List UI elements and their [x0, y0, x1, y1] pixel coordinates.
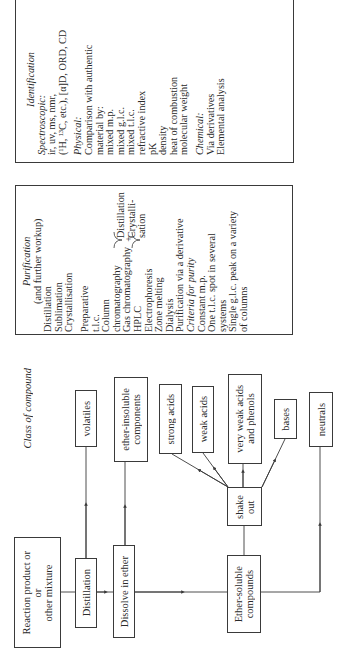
reaction-product-box: Reaction product or or other mixture — [14, 537, 61, 648]
identification-panel: Identification Spectroscopic: ir, uv, ms… — [15, 0, 294, 163]
ether-soluble-box: Ether-soluble compounds — [227, 555, 261, 633]
weak-acids-box: weak acids — [192, 386, 214, 453]
identification-text: Identification Spectroscopic: ir, uv, ms… — [26, 5, 227, 155]
neutrals-connector — [261, 447, 320, 592]
spectroscopic-item: (¹H, ¹³C, etc.), [α]D, ORD, CD — [58, 5, 69, 155]
strong-acids-box: strong acids — [159, 384, 182, 454]
chemical-item: Elemental analysis — [216, 5, 227, 155]
volatiles-label: volatiles — [81, 401, 92, 437]
physical-item: refractive index — [137, 5, 148, 155]
weak-acids-arrow — [214, 468, 228, 487]
ether-insoluble-box: ether-insoluble components — [114, 377, 148, 462]
shake-out-box: shake out — [227, 487, 262, 526]
neutrals-box: neutrals — [309, 392, 333, 447]
very-weak-acids-label: very weak acids and phenols — [234, 385, 256, 453]
dissolve-in-ether-box: Dissolve in ether — [113, 545, 135, 638]
neutrals-label: neutrals — [316, 403, 327, 436]
purification-panel: Purification (and further workup) Distil… — [15, 185, 293, 335]
ether-soluble-label: Ether-soluble compounds — [233, 566, 255, 622]
purification-item: Preparative — [80, 190, 91, 332]
strong-acids-label: strong acids — [165, 394, 176, 444]
class-of-compound-label: Class of compound — [22, 368, 33, 449]
dissolve-in-ether-label: Dissolve in ether — [119, 556, 130, 627]
bases-arrow — [262, 460, 275, 487]
bases-box: bases — [274, 399, 297, 439]
shake-out-label: shake out — [234, 495, 256, 519]
weak-acids-label: weak acids — [198, 396, 209, 442]
distillation-box: Distillation — [75, 558, 97, 628]
bases-label: bases — [280, 408, 291, 431]
distillation-label: Distillation — [81, 569, 92, 616]
physical-item: molecular weight — [179, 5, 190, 155]
reaction-product-label: Reaction product or or other mixture — [21, 551, 54, 634]
strong-acids-arrow — [199, 470, 228, 487]
volatiles-box: volatiles — [75, 390, 97, 447]
ether-insoluble-label: ether-insoluble components — [120, 388, 142, 451]
brace-icon — [112, 230, 142, 252]
criteria-item: of columns — [239, 190, 250, 332]
very-weak-acids-box: very weak acids and phenols — [228, 374, 262, 464]
purification-item: Crystallisation — [64, 190, 75, 332]
